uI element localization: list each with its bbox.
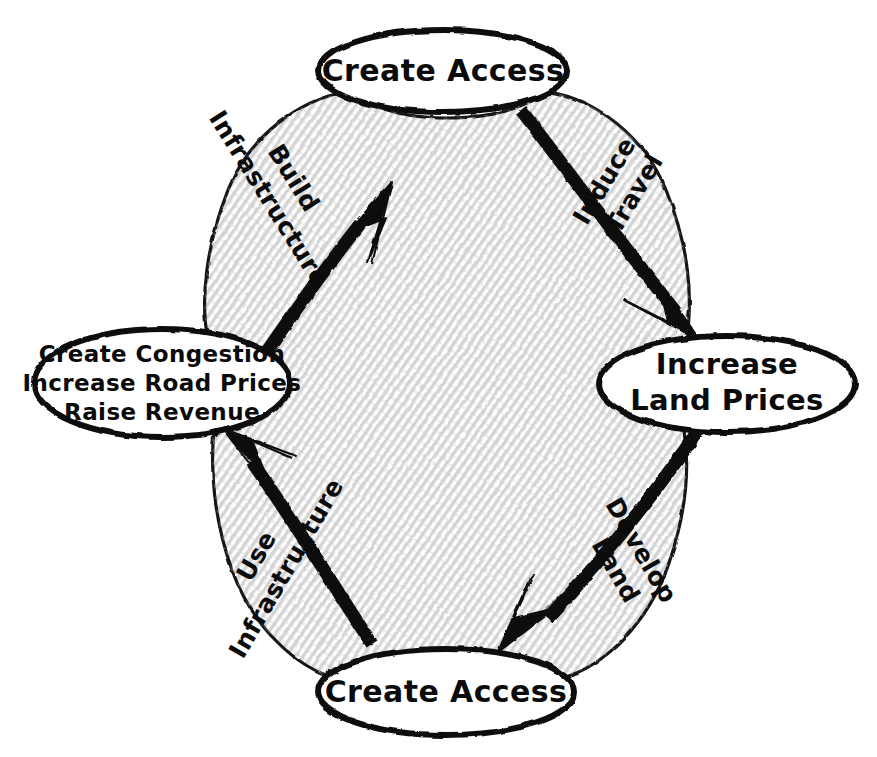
cycle-diagram-svg: Build Infrastructure Induce Travel Devel… <box>0 0 877 757</box>
node-label-line: Increase Road Prices <box>23 370 302 396</box>
node-label-line: Create Congestion <box>39 341 286 367</box>
node-increase-land-prices[interactable]: Increase Land Prices <box>599 336 855 432</box>
node-label-line: Raise Revenue <box>64 399 260 425</box>
node-label-line: Create Access <box>322 53 565 88</box>
node-label-line: Land Prices <box>630 383 824 417</box>
cycle-diagram-canvas: Build Infrastructure Induce Travel Devel… <box>0 0 877 757</box>
node-label-line: Increase <box>656 347 798 381</box>
node-label-line: Create Access <box>325 674 568 709</box>
node-create-congestion[interactable]: Create Congestion Increase Road Prices R… <box>23 329 302 437</box>
node-create-access-top[interactable]: Create Access <box>319 30 567 112</box>
node-create-access-bottom[interactable]: Create Access <box>318 649 574 735</box>
